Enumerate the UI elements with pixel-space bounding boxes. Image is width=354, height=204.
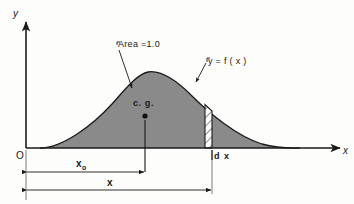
- centroid-label: c. g.: [133, 99, 154, 108]
- area-under-curve: [40, 72, 300, 148]
- diagram-svg: [0, 0, 354, 204]
- x-sub-zero-subscript: o: [82, 164, 87, 171]
- figure-canvas: y x O Area =1.0 y = f ( x ) c. g. d x xo…: [0, 0, 354, 204]
- extension-lines: [26, 150, 212, 200]
- origin-label: O: [16, 151, 24, 161]
- y-axis-label: y: [13, 9, 18, 19]
- x-axis-label: x: [343, 146, 348, 156]
- differential-strip-dx: [205, 105, 212, 149]
- x-sub-zero-label: xo: [76, 159, 86, 171]
- x-dimension-label: x: [107, 178, 113, 188]
- dx-label: d x: [214, 152, 230, 161]
- area-annotation: Area =1.0: [118, 40, 160, 49]
- curve-annotation: y = f ( x ): [208, 57, 247, 66]
